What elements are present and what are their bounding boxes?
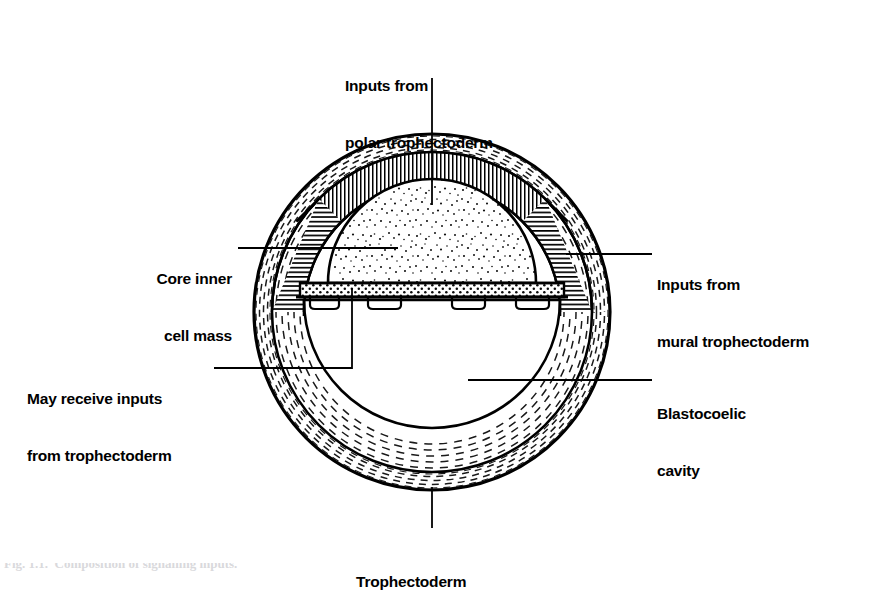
label-may-receive-line2: from trophectoderm xyxy=(27,446,172,465)
label-mural-inputs-line1: Inputs from xyxy=(657,275,809,294)
label-blastocoelic-line1: Blastocoelic xyxy=(657,404,746,423)
label-may-receive-line1: May receive inputs xyxy=(27,389,172,408)
label-polar-inputs-line1: Inputs from xyxy=(345,76,493,95)
label-polar-inputs-line2: polar trophectoderm xyxy=(345,133,493,152)
primitive-endoderm xyxy=(296,283,568,297)
label-trophectoderm-line1: Trophectoderm xyxy=(356,572,466,591)
label-blastocoelic-line2: cavity xyxy=(657,461,746,480)
label-core-icm-line1: Core inner xyxy=(0,269,232,288)
label-core-icm-line2: cell mass xyxy=(0,326,232,345)
label-trophectoderm: Trophectoderm xyxy=(356,534,466,594)
label-blastocoelic-cavity: Blastocoelic cavity xyxy=(657,366,746,518)
label-mural-inputs-line2: mural trophectoderm xyxy=(657,332,809,351)
figure-caption-fragment: Fig. 1.1. Composition of signalling inpu… xyxy=(0,563,300,576)
figure-caption-text: Fig. 1.1. Composition of signalling inpu… xyxy=(4,563,237,572)
label-may-receive-inputs: May receive inputs from trophectoderm xyxy=(27,351,172,503)
label-polar-inputs: Inputs from polar trophectoderm xyxy=(345,38,493,190)
